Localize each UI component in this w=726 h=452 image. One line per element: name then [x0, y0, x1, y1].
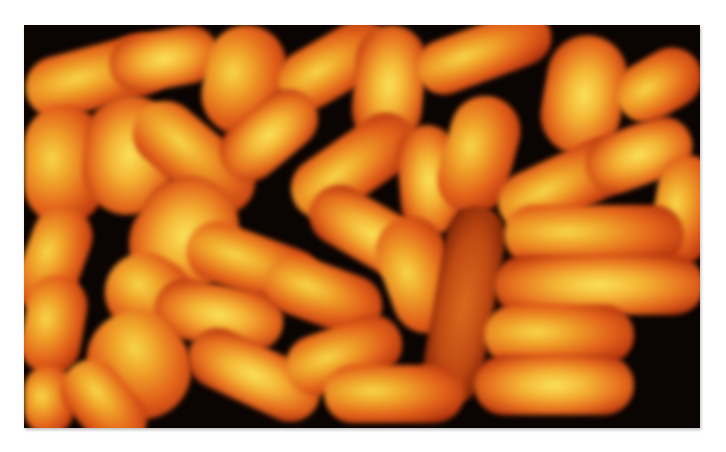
- bacterium-cell: [474, 355, 634, 415]
- bacterium-cell: [409, 25, 559, 102]
- bacteria-micrograph: [24, 25, 700, 428]
- bacterium-cell: [324, 365, 464, 423]
